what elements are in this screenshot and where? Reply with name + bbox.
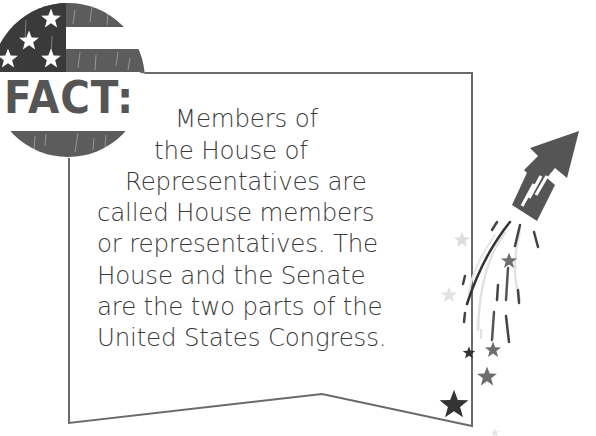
fact-card-artwork <box>0 0 596 436</box>
firework-rocket-icon <box>512 131 579 221</box>
fact-badge-label: FACT: <box>4 76 134 120</box>
firework-trails <box>463 222 538 342</box>
